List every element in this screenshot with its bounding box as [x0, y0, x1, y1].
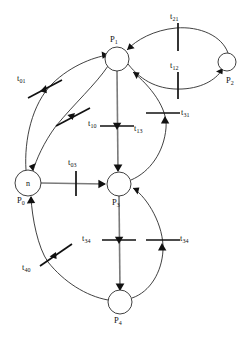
transition-label-t01: t01 — [17, 73, 25, 84]
transition-label-t40: t40 — [22, 262, 30, 273]
arc-p1-t13-p3 — [117, 71, 118, 171]
arc-p4-t40-p0 — [31, 197, 108, 300]
place-label-P4: P4 — [114, 315, 122, 326]
transition-label-t34: t34 — [82, 233, 90, 244]
arrowhead-p0-t03-p3 — [98, 180, 106, 188]
arrowhead-t31-mid — [161, 116, 169, 123]
arrowhead-p4-t43-p3 — [133, 187, 139, 194]
arrowhead-t43-mid — [158, 243, 166, 250]
transition-label-t03: t03 — [68, 157, 76, 168]
transition-label-t12: t12 — [170, 60, 178, 71]
arc-p4-t43-p3 — [132, 188, 163, 298]
place-label-P2: P2 — [226, 75, 234, 86]
transition-bar-t40[interactable] — [40, 244, 72, 266]
transition-bar-t01[interactable] — [28, 80, 62, 98]
place-P1[interactable] — [105, 47, 129, 71]
arc-layer — [26, 28, 228, 300]
place-token-P0: n — [26, 179, 30, 188]
transition-label-t13: t13 — [134, 123, 142, 134]
transition-label-t21: t21 — [170, 11, 178, 22]
place-label-P1: P1 — [110, 34, 118, 45]
petri-net-diagram: n P0 P1 P2 P3 P4 t01 t10 — [0, 0, 251, 337]
petri-net-canvas: n P0 P1 P2 P3 P4 t01 t10 — [0, 0, 251, 337]
place-label-P0: P0 — [17, 195, 25, 206]
transition-label-t43: t34 — [180, 233, 188, 244]
arc-p0-t03-p3 — [41, 183, 105, 184]
place-P4[interactable] — [108, 290, 132, 314]
arrowhead-p4-t40-p0 — [27, 196, 35, 204]
place-P3[interactable] — [107, 172, 131, 196]
transition-label-t10: t10 — [88, 118, 96, 129]
transition-layer — [28, 23, 180, 266]
place-P2[interactable] — [218, 53, 236, 71]
arrowhead-p1-t13-p3 — [114, 164, 123, 172]
transition-label-t31: t31 — [181, 107, 189, 118]
transition-bar-t10[interactable] — [56, 108, 90, 126]
